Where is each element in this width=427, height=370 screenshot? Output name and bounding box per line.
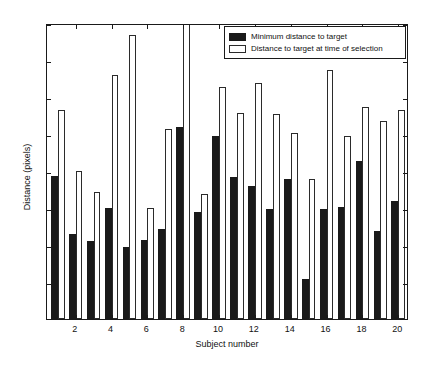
x-axis-tick [183,24,184,29]
bar-selection-subject-2 [76,171,83,319]
y-axis-tick [403,136,408,137]
x-axis-tick [398,315,399,320]
y-axis-tick [403,247,408,248]
bar-selection-subject-16 [327,70,334,319]
x-axis-tick-label: 20 [392,324,402,334]
x-axis-tick-label: 6 [144,324,149,334]
x-axis-tick-label: 8 [180,324,185,334]
bar-layer [47,25,407,319]
bar-selection-subject-1 [58,110,65,319]
x-axis-tick [183,315,184,320]
bar-selection-subject-3 [94,192,101,319]
y-axis-tick [46,173,51,174]
bar-selection-subject-9 [201,194,208,319]
bar-selection-subject-13 [273,114,280,319]
bar-selection-subject-5 [129,35,136,319]
x-axis-tick-label: 10 [213,324,223,334]
x-axis-title: Subject number [46,339,408,349]
bar-selection-subject-10 [219,87,226,319]
bar-minimum-subject-11 [230,177,237,319]
y-axis-tick [403,284,408,285]
x-axis-tick-label: 12 [249,324,259,334]
x-axis-tick [219,315,220,320]
bar-selection-subject-11 [237,113,244,319]
y-axis-tick [46,284,51,285]
bar-selection-subject-18 [362,107,369,319]
y-axis-tick [46,210,51,211]
x-axis-tick [291,315,292,320]
x-axis-tick [362,315,363,320]
bar-minimum-subject-5 [123,247,130,319]
bar-selection-subject-17 [344,136,351,319]
x-axis-tick [76,24,77,29]
bar-selection-subject-20 [398,110,405,319]
bar-minimum-subject-2 [69,234,76,319]
figure: 0510152025303540 2468101214161820 Subjec… [0,0,427,370]
bar-minimum-subject-18 [356,161,363,319]
bar-minimum-subject-12 [248,186,255,319]
bar-minimum-subject-1 [51,176,58,319]
bar-selection-subject-7 [165,129,172,319]
x-axis-tick [219,24,220,29]
y-axis-tick [46,136,51,137]
y-axis-tick [403,62,408,63]
bar-minimum-subject-16 [320,209,327,319]
x-axis-tick-label: 14 [285,324,295,334]
x-axis-tick-label: 2 [72,324,77,334]
y-axis-tick [46,25,51,26]
bar-minimum-subject-13 [266,209,273,319]
bar-minimum-subject-3 [87,241,94,319]
bar-minimum-subject-14 [284,179,291,319]
legend: Minimum distance to target Distance to t… [224,26,406,59]
x-axis-tick [255,315,256,320]
legend-swatch-selection-distance [229,45,246,53]
x-axis-tick-label: 16 [321,324,331,334]
bar-selection-subject-6 [147,208,154,319]
bar-minimum-subject-19 [374,231,381,319]
bar-minimum-subject-6 [141,240,148,319]
x-axis-tick [112,315,113,320]
x-axis-tick [147,315,148,320]
x-axis-tick [112,24,113,29]
bar-minimum-subject-10 [212,136,219,319]
y-axis-tick [403,99,408,100]
legend-label-minimum-distance: Minimum distance to target [251,32,347,41]
y-axis-tick [46,247,51,248]
bar-selection-subject-4 [112,75,119,319]
bar-minimum-subject-4 [105,208,112,319]
x-axis-tick [76,315,77,320]
x-axis-tick [147,24,148,29]
legend-item: Minimum distance to target [229,31,401,42]
bar-selection-subject-12 [255,83,262,319]
plot-area [46,24,408,320]
x-axis-tick [327,315,328,320]
bar-selection-subject-14 [291,133,298,319]
legend-item: Distance to target at time of selection [229,43,401,54]
x-axis-tick-label: 18 [356,324,366,334]
bar-selection-subject-8 [183,24,190,319]
y-axis-tick [403,173,408,174]
bar-selection-subject-19 [380,121,387,319]
bar-minimum-subject-7 [158,229,165,319]
y-axis-tick [46,99,51,100]
y-axis-title: Distance (pixels) [22,107,32,247]
legend-label-selection-distance: Distance to target at time of selection [251,44,383,53]
bar-selection-subject-15 [309,179,316,319]
bar-minimum-subject-20 [391,201,398,319]
y-axis-tick [403,210,408,211]
legend-swatch-minimum-distance [229,33,246,41]
bar-minimum-subject-8 [176,127,183,319]
bar-minimum-subject-17 [338,207,345,319]
x-axis-tick-label: 4 [108,324,113,334]
bar-minimum-subject-15 [302,279,309,319]
y-axis-tick [46,62,51,63]
bar-minimum-subject-9 [194,212,201,319]
